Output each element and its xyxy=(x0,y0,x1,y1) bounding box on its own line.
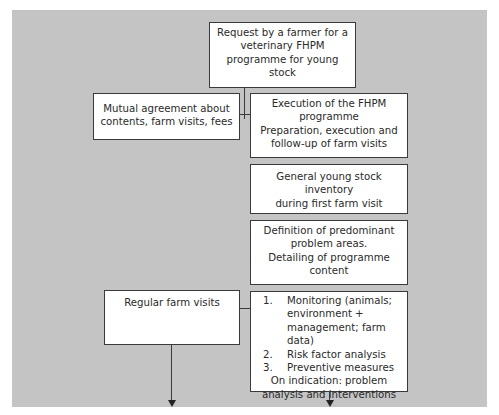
arrow-down-icon xyxy=(168,400,176,407)
monitoring-step: 1.Monitoring (animals; environment + man… xyxy=(255,294,403,348)
request-line: Request by a farmer for a xyxy=(214,26,351,39)
definition-line: content xyxy=(255,264,403,277)
agreement-line: contents, farm visits, fees xyxy=(98,115,235,128)
monitoring-steps: 1.Monitoring (animals; environment + man… xyxy=(255,294,403,374)
inventory-line: inventory xyxy=(255,183,403,196)
monitoring-step: 3.Preventive measures xyxy=(255,361,403,374)
definition-line: problem areas. xyxy=(255,237,403,250)
execution-line: programme xyxy=(255,110,403,123)
inventory-line: during first farm visit xyxy=(255,197,403,210)
regular-visits-box: Regular farm visits xyxy=(104,290,240,345)
request-line: stock xyxy=(214,66,351,79)
request-box: Request by a farmer for a veterinary FHP… xyxy=(209,22,356,88)
execution-line: Execution of the FHPM xyxy=(255,97,403,110)
monitoring-step: 2.Risk factor analysis xyxy=(255,348,403,361)
agreement-line: Mutual agreement about xyxy=(98,102,235,115)
request-line: programme for young xyxy=(214,53,351,66)
monitoring-footer-line: On indication: problem xyxy=(255,374,403,387)
monitoring-box: 1.Monitoring (animals; environment + man… xyxy=(250,291,408,392)
execution-box: Execution of the FHPM programme Preparat… xyxy=(250,93,408,158)
definition-line: Definition of predominant xyxy=(255,224,403,237)
request-line: veterinary FHPM xyxy=(214,39,351,52)
connector-agreement-to-execution xyxy=(239,114,250,115)
execution-line: Preparation, execution and xyxy=(255,124,403,137)
connector-regular-to-monitoring xyxy=(240,308,250,309)
inventory-line: General young stock xyxy=(255,170,403,183)
monitoring-footer-line: analysis and interventions xyxy=(255,388,403,401)
definition-line: Detailing of programme xyxy=(255,251,403,264)
execution-line: follow-up of farm visits xyxy=(255,137,403,150)
definition-box: Definition of predominant problem areas.… xyxy=(250,220,408,285)
agreement-box: Mutual agreement about contents, farm vi… xyxy=(93,93,240,140)
inventory-box: General young stock inventory during fir… xyxy=(250,164,408,214)
regular-visits-label: Regular farm visits xyxy=(109,296,235,309)
arrow-regular-visits-down-line xyxy=(171,344,172,402)
